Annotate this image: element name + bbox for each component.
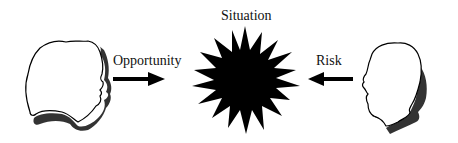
right-head-icon: [363, 43, 427, 134]
left-head-outline: [26, 41, 103, 122]
risk-label: Risk: [316, 53, 342, 69]
situation-starburst-icon: [192, 26, 300, 134]
left-head-icon: [26, 41, 111, 131]
opportunity-label: Opportunity: [113, 53, 181, 69]
situation-label: Situation: [221, 8, 272, 24]
opportunity-arrow-icon: [113, 72, 165, 86]
risk-arrow-icon: [308, 72, 353, 86]
